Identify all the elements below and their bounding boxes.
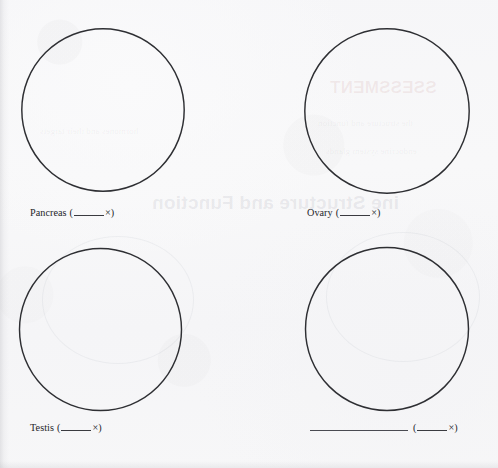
label-pancreas: Pancreas — [30, 207, 67, 218]
magnification-blank-unlabeled[interactable] — [417, 421, 447, 431]
circle-outline-testis — [16, 246, 185, 413]
drawing-circle-unlabeled[interactable] — [302, 245, 472, 413]
circle-outline-ovary — [302, 26, 472, 196]
circle-outline-unlabeled — [302, 245, 472, 413]
magnification-blank-testis[interactable] — [61, 421, 91, 431]
magnification-blank-ovary[interactable] — [340, 206, 370, 216]
label-ovary: Ovary — [307, 207, 333, 218]
magnification-close-paren-unlabeled: ) — [454, 422, 457, 433]
caption-pancreas: Pancreas ( × ) — [30, 206, 114, 218]
caption-unlabeled: ( × ) — [310, 421, 458, 433]
page-bottom-edge-shadow — [0, 461, 498, 468]
magnification-close-paren-ovary: ) — [377, 207, 380, 218]
drawing-circle-testis[interactable] — [16, 246, 185, 413]
page-gutter-shadow — [0, 0, 9, 468]
label-testis: Testis — [30, 422, 54, 433]
caption-ovary: Ovary ( × ) — [307, 206, 380, 218]
magnification-open-paren-ovary: ( — [336, 207, 339, 218]
drawing-circle-ovary[interactable] — [302, 26, 472, 196]
organ-name-blank[interactable] — [310, 421, 408, 431]
caption-testis: Testis ( × ) — [30, 421, 102, 433]
magnification-close-paren-pancreas: ) — [111, 207, 114, 218]
magnification-open-paren-unlabeled: ( — [413, 422, 416, 433]
magnification-open-paren-pancreas: ( — [70, 207, 73, 218]
worksheet-page: SSESSMENT ine Structure and Function the… — [0, 0, 498, 468]
magnification-blank-pancreas[interactable] — [74, 206, 104, 216]
circle-outline-pancreas — [19, 26, 187, 194]
magnification-close-paren-testis: ) — [98, 422, 101, 433]
magnification-open-paren-testis: ( — [57, 422, 60, 433]
drawing-circle-pancreas[interactable] — [19, 26, 187, 194]
